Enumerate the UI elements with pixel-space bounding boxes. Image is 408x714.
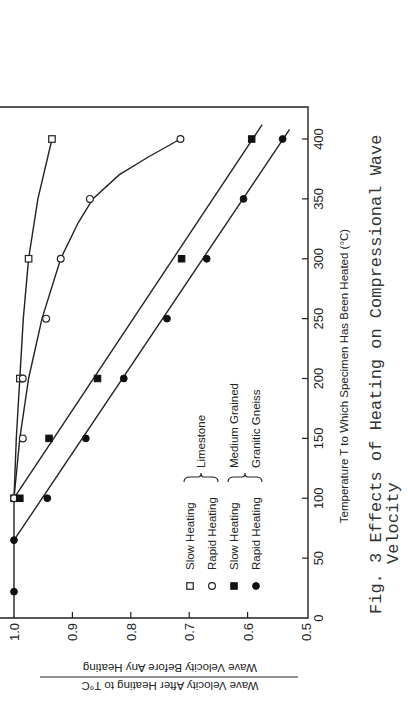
x-tick-label: 250: [311, 308, 326, 330]
x-axis-title: Temperature T to Which Specimen Has Been…: [338, 229, 350, 524]
data-markers: [11, 136, 286, 595]
axis-ticks: 0501001502002503003504000.50.60.70.80.91…: [7, 128, 326, 641]
y-axis-title-denominator: Wave Velocity Before Any Heating: [83, 662, 257, 674]
chart: 0501001502002503003504000.50.60.70.80.91…: [0, 0, 408, 714]
x-tick-label: 50: [311, 551, 326, 565]
data-point: [279, 136, 286, 143]
legend-brace-gneiss: [228, 473, 262, 482]
data-point: [25, 256, 32, 263]
x-tick-label: 350: [311, 188, 326, 210]
legend-label: Rapid Heating: [250, 497, 262, 570]
data-point: [248, 136, 255, 143]
data-point: [19, 435, 26, 442]
data-point: [57, 255, 64, 262]
legend-label: Slow Heating: [184, 502, 196, 570]
y-tick-label: 0.8: [124, 623, 139, 641]
data-point: [203, 255, 210, 262]
legend-marker: [253, 583, 260, 590]
legend-brace-limestone: [184, 473, 218, 482]
data-point: [11, 588, 18, 595]
y-tick-label: 0.9: [65, 623, 80, 641]
legend-label: Slow Heating: [228, 502, 240, 570]
legend: Slow HeatingRapid HeatingSlow HeatingRap…: [184, 383, 262, 589]
legend-marker: [231, 583, 238, 590]
y-tick-label: 1.0: [7, 623, 22, 641]
y-tick-label: 0.7: [182, 623, 197, 641]
y-tick-label: 0.5: [299, 623, 314, 641]
data-point: [164, 315, 171, 322]
legend-group-gneiss-line-1: Medium Grained: [228, 383, 240, 468]
x-tick-label: 200: [311, 368, 326, 390]
fit-lines: [14, 125, 290, 618]
legend-marker: [209, 583, 216, 590]
data-point: [11, 537, 18, 544]
legend-group-gneiss-line-2: Granitic Gneiss: [250, 389, 262, 468]
data-point: [120, 375, 127, 382]
data-point: [178, 256, 185, 263]
y-axis-title: Wave Velocity After Heating to T°C Wave …: [40, 662, 298, 692]
x-tick-label: 400: [311, 128, 326, 150]
x-tick-label: 300: [311, 248, 326, 270]
data-point: [240, 195, 247, 202]
rotated-page: 0501001502002503003504000.50.60.70.80.91…: [0, 0, 408, 714]
data-point: [46, 435, 53, 442]
data-point: [177, 136, 184, 143]
data-point: [43, 315, 50, 322]
figure-caption-line-2: Velocity: [384, 482, 403, 564]
x-tick-label: 150: [311, 428, 326, 450]
x-tick-label: 0: [311, 614, 326, 621]
legend-marker: [187, 583, 194, 590]
y-axis-title-numerator: Wave Velocity After Heating to T°C: [81, 680, 258, 692]
gneiss-slow-fit: [14, 125, 262, 499]
data-point: [87, 195, 94, 202]
legend-group-limestone: Limestone: [195, 415, 207, 468]
legend-label: Rapid Heating: [206, 497, 218, 570]
data-point: [44, 495, 51, 502]
x-tick-label: 100: [311, 487, 326, 509]
data-point: [17, 495, 24, 502]
data-point: [94, 375, 101, 382]
gneiss-rapid-fit: [14, 129, 290, 540]
y-tick-label: 0.6: [241, 623, 256, 641]
data-point: [82, 435, 89, 442]
data-point: [49, 136, 56, 143]
data-point: [19, 375, 26, 382]
